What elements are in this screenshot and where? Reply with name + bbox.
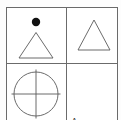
triangle-group [76, 18, 112, 52]
filled-circle-dot-icon [32, 18, 40, 26]
analogy-matrix-grid: A [6, 7, 118, 120]
dot-over-triangle-group [12, 13, 60, 59]
matrix-cell-bottom-right[interactable]: A [67, 64, 117, 120]
matrix-cell-bottom-left[interactable] [7, 64, 66, 120]
figure-canvas: A [0, 0, 121, 120]
triangle-outline-icon [78, 20, 110, 50]
option-label-a: A [72, 117, 77, 120]
matrix-cell-top-left[interactable] [7, 8, 66, 63]
circle-with-cross-group [10, 68, 62, 120]
matrix-cell-top-right[interactable] [67, 8, 117, 63]
triangle-outline-icon [19, 33, 53, 59]
